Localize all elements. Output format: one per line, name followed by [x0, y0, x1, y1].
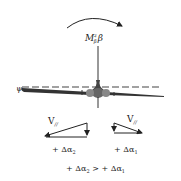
comparison-label: + Δα2 > + Δα1 — [66, 164, 125, 174]
left-velocity-label: V// — [47, 116, 59, 127]
moment-label: Mzββ — [84, 32, 103, 45]
right-wing — [106, 92, 164, 97]
angle-label: ψ — [16, 84, 23, 93]
right-velocity-triangle — [114, 123, 142, 133]
right-velocity-label: V// — [126, 114, 138, 125]
left-delta-label: + Δα2 — [52, 145, 76, 155]
right-delta-label: + Δα1 — [114, 145, 138, 155]
left-wing — [21, 88, 90, 95]
moment-arrow-icon — [67, 18, 122, 28]
aircraft-roll-diagram: Mzββ ψ V// + Δα2 V// + Δα1 + Δα2 > + Δα1 — [0, 0, 181, 181]
